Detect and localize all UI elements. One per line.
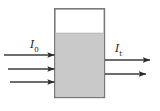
absorbing-medium-fill xyxy=(56,33,104,97)
transmitted-intensity-label: It xyxy=(115,43,122,57)
incident-subscript: 0 xyxy=(34,46,38,54)
incident-intensity-label: I0 xyxy=(30,39,39,53)
diagram-canvas xyxy=(0,0,160,111)
optics-transmission-diagram: I0 It xyxy=(0,0,160,111)
transmitted-subscript: t xyxy=(119,50,122,58)
